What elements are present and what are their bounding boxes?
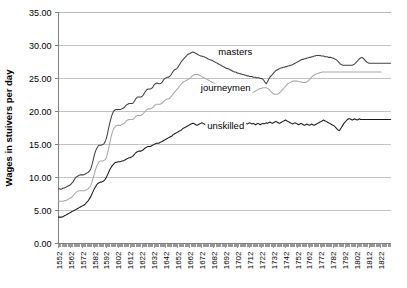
x-tick-label-1772: 1772 <box>317 251 326 269</box>
x-tick-label-1682: 1682 <box>210 251 219 269</box>
chart-container: 0.005.0010.0015.0020.0025.0030.0035.00 1… <box>0 0 407 288</box>
annotation-masters: masters <box>218 46 252 57</box>
x-tick-label-1582: 1582 <box>91 251 100 269</box>
x-tick-label-1672: 1672 <box>198 251 207 269</box>
x-tick-label-1822: 1822 <box>377 251 386 269</box>
y-axis-title: Wages in stuivers per day <box>3 69 14 187</box>
x-tick-label-1612: 1612 <box>126 251 135 269</box>
gridlines <box>59 13 391 211</box>
data-series <box>59 52 391 217</box>
y-tick-label-0: 0.00 <box>34 239 52 249</box>
series-line-unskilled <box>59 119 391 217</box>
x-tick-label-1712: 1712 <box>246 251 255 269</box>
x-axis-tick-labels: 1552156215721582159216021612162216321642… <box>55 251 386 269</box>
y-axis-tick-labels: 0.005.0010.0015.0020.0025.0030.0035.00 <box>29 8 52 249</box>
y-tick-label-25: 25.00 <box>29 74 52 84</box>
x-axis-tick-marks <box>59 244 391 249</box>
x-tick-label-1752: 1752 <box>294 251 303 269</box>
x-tick-label-1642: 1642 <box>162 251 171 269</box>
x-tick-label-1762: 1762 <box>305 251 314 269</box>
x-tick-label-1722: 1722 <box>258 251 267 269</box>
y-tick-label-20: 20.00 <box>29 107 52 117</box>
annotation-journeymen: journeymen <box>200 82 251 93</box>
x-tick-label-1622: 1622 <box>138 251 147 269</box>
x-tick-label-1562: 1562 <box>67 251 76 269</box>
x-tick-label-1812: 1812 <box>365 251 374 269</box>
x-tick-label-1552: 1552 <box>55 251 64 269</box>
wages-line-chart: 0.005.0010.0015.0020.0025.0030.0035.00 1… <box>0 0 407 288</box>
x-tick-label-1632: 1632 <box>150 251 159 269</box>
x-tick-label-1652: 1652 <box>174 251 183 269</box>
x-tick-label-1802: 1802 <box>353 251 362 269</box>
x-tick-label-1692: 1692 <box>222 251 231 269</box>
x-tick-label-1792: 1792 <box>341 251 350 269</box>
x-tick-label-1702: 1702 <box>234 251 243 269</box>
y-axis-tick-marks <box>55 13 59 244</box>
y-tick-label-10: 10.00 <box>29 173 52 183</box>
x-tick-label-1782: 1782 <box>329 251 338 269</box>
annotation-unskilled: unskilled <box>207 120 244 131</box>
y-tick-label-5: 5.00 <box>34 206 52 216</box>
x-tick-label-1602: 1602 <box>114 251 123 269</box>
y-tick-label-15: 15.00 <box>29 140 52 150</box>
y-tick-label-35: 35.00 <box>29 8 52 18</box>
y-tick-label-30: 30.00 <box>29 41 52 51</box>
x-tick-label-1742: 1742 <box>282 251 291 269</box>
x-tick-label-1732: 1732 <box>270 251 279 269</box>
x-tick-label-1662: 1662 <box>186 251 195 269</box>
x-tick-label-1592: 1592 <box>102 251 111 269</box>
x-tick-label-1572: 1572 <box>79 251 88 269</box>
